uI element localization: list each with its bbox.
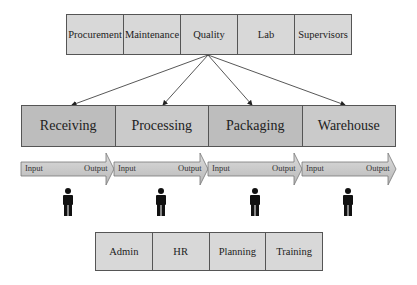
person-icon bbox=[250, 188, 260, 216]
support-departments-row: Admin HR Planning Training bbox=[95, 232, 323, 271]
person-icon bbox=[156, 188, 166, 216]
dept-hr: HR bbox=[153, 233, 210, 270]
dept-planning: Planning bbox=[210, 233, 267, 270]
dept-training: Training bbox=[266, 233, 322, 270]
person-icon bbox=[343, 188, 353, 216]
person-icon bbox=[63, 188, 73, 216]
dept-admin: Admin bbox=[96, 233, 153, 270]
